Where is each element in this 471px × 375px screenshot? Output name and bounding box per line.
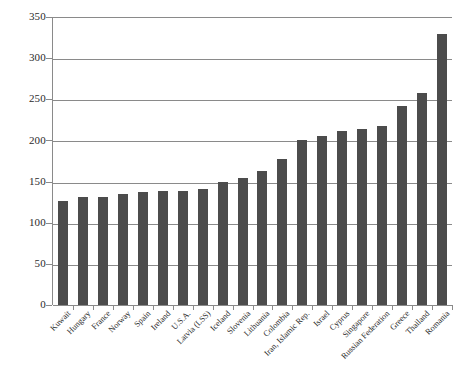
- x-tick-label: Ireland: [149, 309, 172, 332]
- x-tick-mark: [452, 305, 453, 310]
- y-tick-label: 50: [6, 258, 46, 269]
- bar: [238, 178, 248, 305]
- y-tick-label: 250: [6, 93, 46, 104]
- bar: [357, 129, 367, 305]
- bar: [198, 189, 208, 305]
- bar: [178, 191, 188, 305]
- x-tick-mark: [133, 305, 134, 310]
- x-tick-mark: [153, 305, 154, 310]
- x-tick-mark: [173, 305, 174, 310]
- x-tick-mark: [412, 305, 413, 310]
- x-axis-ticks: [53, 305, 452, 311]
- bar: [257, 171, 267, 305]
- y-tick-label: 0: [6, 299, 46, 310]
- bar: [78, 197, 88, 305]
- x-tick-mark: [93, 305, 94, 310]
- y-tick-label: 350: [6, 11, 46, 22]
- x-tick-mark: [292, 305, 293, 310]
- y-tick-label: 200: [6, 135, 46, 146]
- bar: [337, 131, 347, 305]
- x-tick-mark: [332, 305, 333, 310]
- x-tick-mark: [253, 305, 254, 310]
- bar: [118, 194, 128, 305]
- bar: [98, 197, 108, 305]
- x-tick-mark: [272, 305, 273, 310]
- y-tick-label: 300: [6, 52, 46, 63]
- bar: [218, 182, 228, 305]
- bar: [317, 136, 327, 305]
- bar: [377, 126, 387, 305]
- bar: [297, 140, 307, 305]
- x-tick-mark: [73, 305, 74, 310]
- bar: [138, 192, 148, 305]
- bar: [417, 93, 427, 305]
- x-tick-mark: [213, 305, 214, 310]
- x-tick-mark: [432, 305, 433, 310]
- x-tick-mark: [233, 305, 234, 310]
- y-tick-mark: [46, 305, 52, 306]
- y-tick-label: 100: [6, 217, 46, 228]
- x-tick-mark: [352, 305, 353, 310]
- y-tick-label: 150: [6, 176, 46, 187]
- x-tick-mark: [193, 305, 194, 310]
- x-tick-mark: [372, 305, 373, 310]
- x-tick-mark: [312, 305, 313, 310]
- bar: [437, 34, 447, 305]
- bar: [158, 191, 168, 305]
- bar: [58, 201, 68, 305]
- x-tick-mark: [113, 305, 114, 310]
- bar: [277, 159, 287, 305]
- bar-chart: 350 300 250 200 150 100 50 0 KuwaitHunga…: [0, 0, 471, 375]
- bar: [397, 106, 407, 305]
- x-tick-mark: [392, 305, 393, 310]
- bars-layer: [53, 17, 452, 305]
